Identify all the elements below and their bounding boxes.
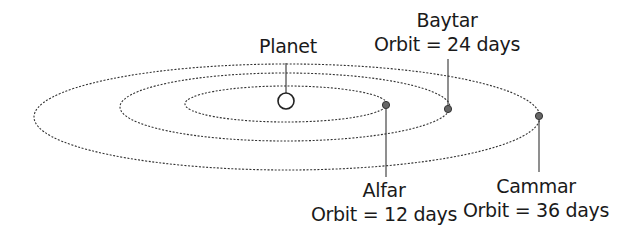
planet-label: Planet: [259, 34, 317, 58]
alfar-orbit: Orbit = 12 days: [311, 202, 457, 226]
cammar-moon-icon: [535, 112, 542, 119]
cammar-name: Cammar: [463, 174, 609, 198]
planet-name: Planet: [259, 34, 317, 58]
baytar-moon-icon: [444, 105, 451, 112]
planet-icon: [278, 93, 294, 109]
alfar-name: Alfar: [311, 178, 457, 202]
cammar-label: Cammar Orbit = 36 days: [463, 174, 609, 222]
baytar-name: Baytar: [374, 8, 520, 32]
baytar-orbit: Orbit = 24 days: [374, 32, 520, 56]
alfar-label: Alfar Orbit = 12 days: [311, 178, 457, 226]
alfar-moon-icon: [382, 101, 389, 108]
outer-orbit: [34, 64, 540, 170]
baytar-label: Baytar Orbit = 24 days: [374, 8, 520, 56]
cammar-orbit: Orbit = 36 days: [463, 198, 609, 222]
